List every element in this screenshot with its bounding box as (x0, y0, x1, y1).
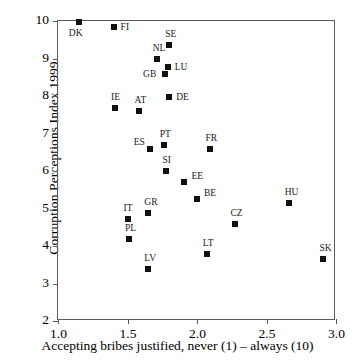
data-point-marker[interactable] (165, 64, 171, 70)
y-tick: 10 (53, 21, 58, 22)
data-point-label: HU (285, 187, 299, 197)
plot-area: 2345678910 1.01.52.02.53.0 DKFISENLLUGBD… (57, 20, 335, 320)
data-point-marker[interactable] (194, 196, 200, 202)
data-point-label: SK (319, 243, 331, 253)
data-point-marker[interactable] (126, 236, 132, 242)
data-point-label: PT (160, 129, 171, 139)
y-tick-label: 8 (42, 87, 49, 103)
data-point-marker[interactable] (154, 56, 160, 62)
y-tick: 5 (53, 209, 58, 210)
data-point-marker[interactable] (232, 221, 238, 227)
y-tick: 9 (53, 59, 58, 60)
y-tick-label: 10 (36, 12, 50, 28)
y-tick-label: 6 (42, 162, 49, 178)
data-point-label: AT (135, 95, 147, 105)
data-point-label: IE (111, 92, 120, 102)
y-tick-label: 4 (42, 237, 49, 253)
data-point-label: FR (206, 133, 218, 143)
data-point-label: DK (69, 28, 83, 38)
y-tick: 3 (53, 284, 58, 285)
data-point-marker[interactable] (136, 108, 142, 114)
data-point-label: DE (176, 92, 189, 102)
data-point-label: LV (144, 253, 156, 263)
y-tick-label: 9 (42, 50, 49, 66)
data-point-label: SE (165, 29, 176, 39)
data-point-marker[interactable] (147, 146, 153, 152)
data-point-label: NL (153, 43, 166, 53)
data-point-label: LT (203, 238, 214, 248)
data-point-label: IT (124, 203, 133, 213)
data-point-label: SI (162, 155, 170, 165)
data-point-label: LU (175, 62, 188, 72)
data-point-marker[interactable] (320, 256, 326, 262)
data-point-marker[interactable] (204, 251, 210, 257)
data-point-label: GR (144, 197, 157, 207)
y-tick-label: 3 (42, 275, 49, 291)
data-point-marker[interactable] (145, 266, 151, 272)
data-point-marker[interactable] (166, 42, 172, 48)
data-point-marker[interactable] (207, 146, 213, 152)
data-point-marker[interactable] (125, 216, 131, 222)
data-point-marker[interactable] (162, 71, 168, 77)
x-tick: 2.0 (197, 319, 198, 324)
x-tick: 3.0 (336, 319, 337, 324)
data-point-label: EE (191, 171, 203, 181)
data-point-label: FI (121, 22, 129, 32)
data-point-marker[interactable] (161, 142, 167, 148)
y-tick: 8 (53, 96, 58, 97)
scatter-plot-figure: Corruption Perceptions Index 1999 234567… (0, 0, 355, 360)
data-point-label: PL (125, 223, 136, 233)
x-axis-label: Accepting bribes justified, never (1) – … (0, 338, 355, 354)
y-tick-label: 2 (42, 312, 49, 328)
data-point-label: CZ (231, 208, 243, 218)
y-tick: 7 (53, 134, 58, 135)
data-point-marker[interactable] (112, 105, 118, 111)
data-point-marker[interactable] (76, 19, 82, 25)
x-tick: 1.5 (128, 319, 129, 324)
data-point-label: BE (204, 188, 216, 198)
y-tick-label: 7 (42, 125, 49, 141)
x-tick: 2.5 (267, 319, 268, 324)
y-tick: 4 (53, 246, 58, 247)
data-point-marker[interactable] (111, 24, 117, 30)
x-tick: 1.0 (58, 319, 59, 324)
data-point-marker[interactable] (286, 200, 292, 206)
data-point-label: ES (134, 137, 145, 147)
y-tick-label: 5 (42, 200, 49, 216)
y-tick: 6 (53, 171, 58, 172)
data-point-marker[interactable] (145, 210, 151, 216)
data-point-label: GB (143, 69, 156, 79)
data-point-marker[interactable] (166, 94, 172, 100)
data-point-marker[interactable] (181, 179, 187, 185)
data-point-marker[interactable] (163, 168, 169, 174)
